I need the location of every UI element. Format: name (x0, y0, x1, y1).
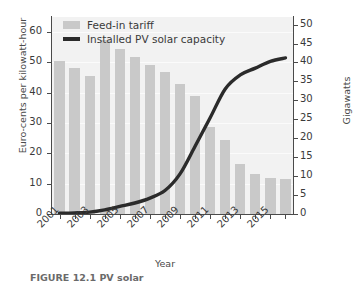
axis-spine-left (51, 16, 52, 215)
line-swatch-icon (63, 37, 80, 41)
y-axis-right-tick-label: 50 (300, 18, 313, 29)
y-axis-right-tick-label: 10 (300, 169, 313, 180)
x-axis-tick (240, 215, 241, 219)
y-axis-right-tick-label: 40 (300, 55, 313, 66)
y-axis-right-tick-label: 0 (300, 207, 306, 218)
line-path (60, 58, 286, 213)
y-axis-right-tick (294, 62, 298, 63)
x-axis-tick (120, 215, 121, 219)
legend-item-installed-pv-solar-capacity: Installed PV solar capacity (63, 32, 225, 46)
x-axis-tick (270, 215, 271, 219)
y-axis-left-tick-label: 20 (0, 146, 42, 157)
x-axis-tick (150, 215, 151, 219)
y-axis-left-tick (47, 93, 51, 94)
legend: Feed-in tariff Installed PV solar capaci… (63, 18, 225, 46)
y-axis-left-tick-label: 30 (0, 116, 42, 127)
y-axis-left-tick (47, 62, 51, 63)
y-axis-left-tick (47, 123, 51, 124)
y-axis-right-tick-label: 35 (300, 74, 313, 85)
y-axis-right-tick (294, 176, 298, 177)
bar-swatch-icon (63, 21, 80, 29)
line-series-installed-pv-capacity (52, 17, 293, 214)
x-axis-tick (60, 215, 61, 219)
y-axis-left-tick-label: 40 (0, 86, 42, 97)
y-axis-right-tick (294, 44, 298, 45)
y-axis-right-label: Gigawatts (341, 41, 352, 161)
y-axis-right-tick-label: 20 (300, 131, 313, 142)
x-axis-tick (180, 215, 181, 219)
y-axis-right-tick (294, 119, 298, 120)
legend-item-feed-in-tariff: Feed-in tariff (63, 18, 225, 32)
y-axis-right-tick (294, 138, 298, 139)
axis-spine-right (293, 16, 294, 215)
y-axis-right-tick-label: 45 (300, 37, 313, 48)
legend-label: Installed PV solar capacity (87, 33, 225, 45)
y-axis-left-tick (47, 32, 51, 33)
x-axis-tick (285, 215, 286, 219)
y-axis-right-tick-label: 5 (300, 188, 306, 199)
x-axis-tick (90, 215, 91, 219)
x-axis-label: Year (0, 258, 330, 269)
y-axis-left-tick-label: 0 (0, 207, 42, 218)
y-axis-right-tick-label: 15 (300, 150, 313, 161)
y-axis-right-tick-label: 30 (300, 93, 313, 104)
y-axis-right-tick (294, 157, 298, 158)
y-axis-right-tick (294, 214, 298, 215)
legend-label: Feed-in tariff (87, 19, 154, 31)
y-axis-left-tick (47, 184, 51, 185)
y-axis-left-tick-label: 60 (0, 25, 42, 36)
plot-area (52, 17, 293, 214)
y-axis-right-tick (294, 100, 298, 101)
y-axis-right-tick (294, 25, 298, 26)
figure-caption: FIGURE 12.1 PV solar (30, 272, 144, 283)
y-axis-left-tick-label: 10 (0, 177, 42, 188)
y-axis-left-tick (47, 153, 51, 154)
y-axis-right-tick-label: 25 (300, 112, 313, 123)
y-axis-left-tick-label: 50 (0, 55, 42, 66)
y-axis-right-tick (294, 81, 298, 82)
x-axis-tick (210, 215, 211, 219)
y-axis-right-tick (294, 195, 298, 196)
